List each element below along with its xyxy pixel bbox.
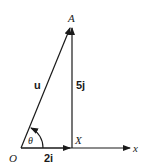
label-theta: θ xyxy=(28,135,33,146)
diagram-canvas: A O X x θ u 5j 2i xyxy=(0,0,145,168)
vector-u xyxy=(21,28,70,148)
label-X: X xyxy=(74,134,83,146)
label-O: O xyxy=(9,152,17,164)
label-5j: 5j xyxy=(76,79,85,91)
label-2i: 2i xyxy=(44,152,53,164)
label-x-axis: x xyxy=(132,142,138,154)
label-u: u xyxy=(34,79,41,91)
label-A: A xyxy=(67,12,75,24)
vector-diagram: A O X x θ u 5j 2i xyxy=(0,0,145,168)
